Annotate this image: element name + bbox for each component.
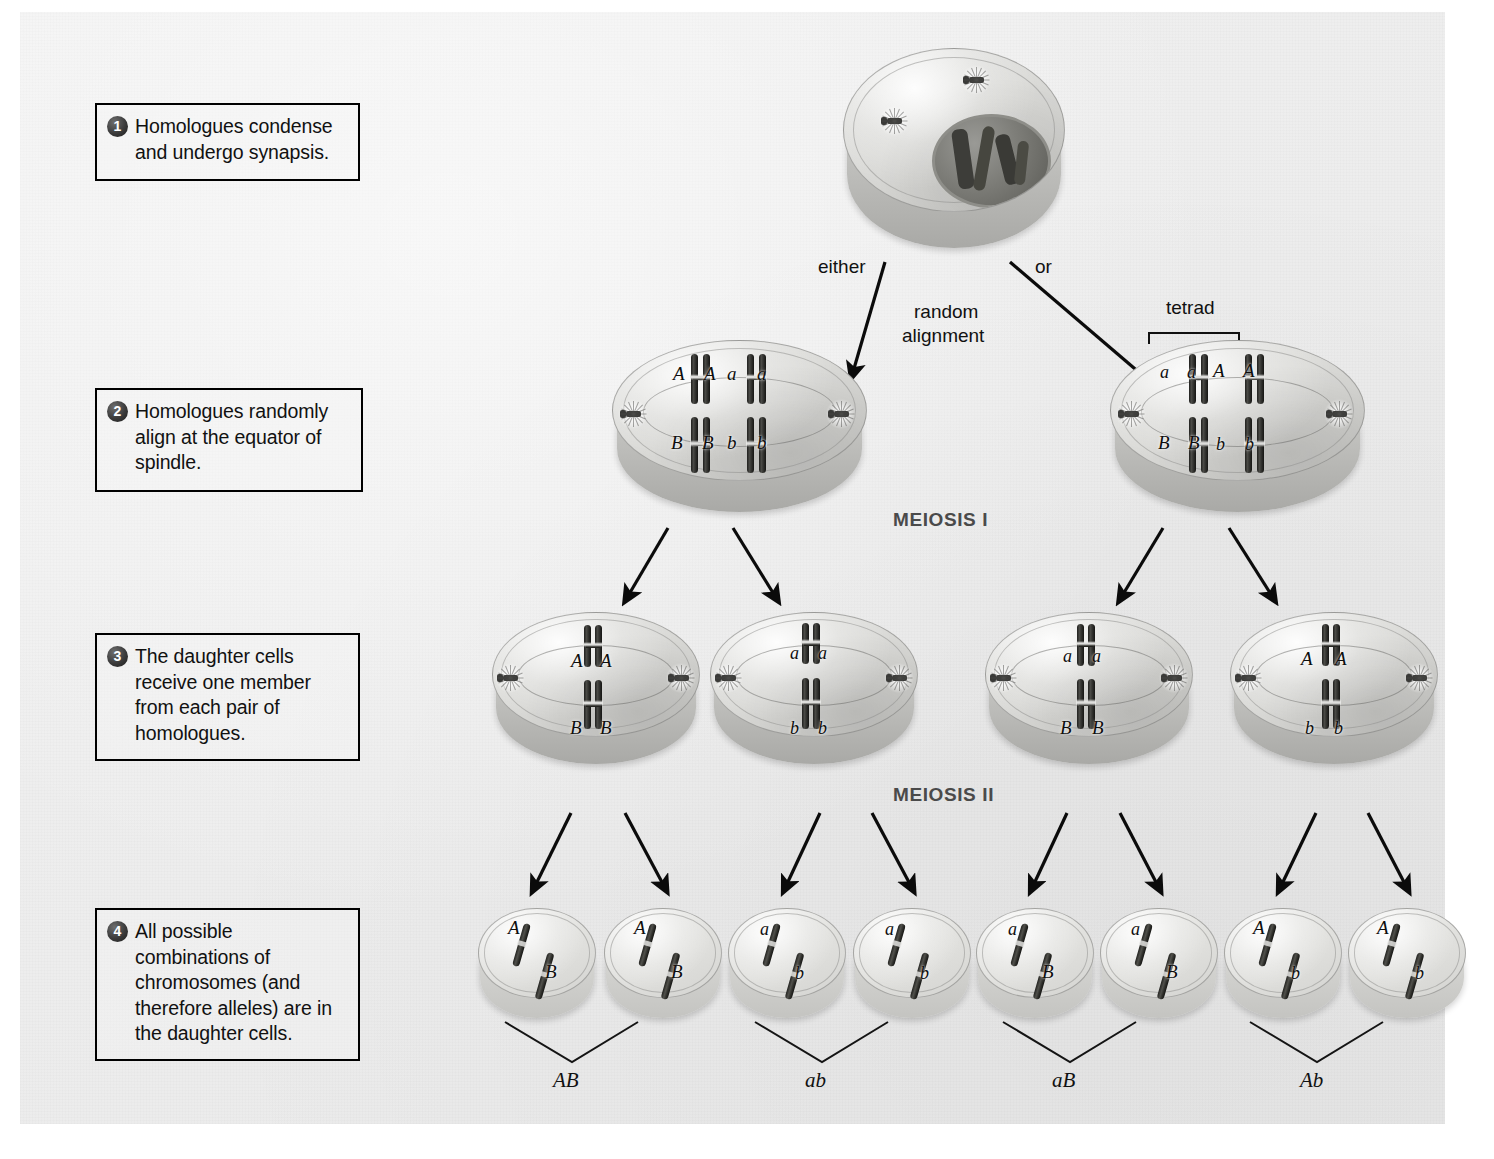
allele-c3-bot-1: B (1060, 717, 1072, 739)
gamete-3 (728, 908, 846, 1018)
allele-m2-bot-4: b (1245, 434, 1254, 455)
allele-m2-top-4: A (1243, 360, 1255, 382)
gamete-8-lower-allele: b (1415, 963, 1424, 984)
allele-c4-top-1: A (1301, 648, 1313, 670)
centrosome-upper (961, 65, 991, 95)
step-text-4: All possible combinations of chromosomes… (135, 919, 348, 1047)
gamete-2-upper-allele: A (634, 917, 646, 939)
genotype-Ab: Ab (1300, 1068, 1323, 1093)
allele-c2-bot-1: b (790, 718, 799, 739)
allele-c4-top-2: A (1335, 648, 1347, 670)
gamete-4 (853, 908, 971, 1018)
allele-m1-bot-2: B (702, 432, 714, 454)
genotype-AB: AB (553, 1068, 579, 1093)
allele-m2-bot-3: b (1216, 434, 1225, 455)
centrosome-right (1159, 663, 1189, 693)
gamete-5-upper-allele: a (1008, 919, 1017, 940)
gamete-7-upper-allele: A (1253, 917, 1265, 939)
allele-c1-top-2: A (600, 650, 612, 672)
allele-c2-top-2: a (818, 643, 827, 664)
gamete-6-lower-allele: B (1166, 961, 1178, 983)
allele-c3-top-1: a (1063, 646, 1072, 667)
allele-m1-top-2: A (704, 363, 716, 385)
allele-m1-bot-4: b (757, 432, 767, 454)
centrosome-right (666, 663, 696, 693)
gamete-6 (1100, 908, 1218, 1018)
allele-m2-top-2: a (1187, 362, 1196, 383)
meiosis-i-label: MEIOSIS I (893, 509, 988, 531)
allele-m1-bot-3: b (727, 432, 737, 454)
meiosis-figure: 1 Homologues condense and undergo synaps… (0, 0, 1494, 1159)
gamete-5-lower-allele: B (1042, 961, 1054, 983)
tetrad-label: tetrad (1166, 296, 1215, 320)
allele-m2-top-1: a (1160, 362, 1169, 383)
allele-m1-bot-1: B (671, 432, 683, 454)
meiosis-II-cell-1 (492, 612, 700, 764)
either-label: either (818, 255, 866, 279)
gamete-1-upper-allele: A (508, 917, 520, 939)
step-text-2: Homologues randomly align at the equator… (135, 399, 351, 476)
centrosome-right (884, 663, 914, 693)
gamete-3-upper-allele: a (760, 919, 769, 940)
gamete-4-upper-allele: a (885, 919, 894, 940)
meiosis-II-cell-2 (710, 612, 918, 764)
chromosome-B (584, 680, 602, 729)
allele-m1-top-4: a (757, 363, 767, 385)
allele-m1-top-1: A (673, 363, 685, 385)
step-number-1: 1 (107, 116, 128, 137)
allele-m1-top-3: a (727, 363, 737, 385)
gamete-2-lower-allele: B (671, 961, 683, 983)
centrosome-right (1404, 663, 1434, 693)
allele-c3-bot-2: B (1092, 717, 1104, 739)
gamete-1-lower-allele: B (545, 961, 557, 983)
allele-m2-top-3: A (1213, 360, 1225, 382)
step-text-3: The daughter cells receive one member fr… (135, 644, 348, 746)
gamete-8-upper-allele: A (1377, 917, 1389, 939)
step-box-4: 4 All possible combinations of chromosom… (95, 908, 360, 1061)
chromosome-A (584, 625, 602, 667)
chromosome-a (802, 623, 820, 665)
allele-m2-bot-2: B (1188, 432, 1200, 454)
genotype-ab: ab (805, 1068, 826, 1093)
step-number-2: 2 (107, 401, 128, 422)
step-box-3: 3 The daughter cells receive one member … (95, 633, 360, 761)
centrosome-right (1324, 399, 1354, 429)
allele-c1-bot-2: B (600, 717, 612, 739)
meiosis-II-cell-3 (985, 612, 1193, 764)
allele-c1-bot-1: B (570, 717, 582, 739)
allele-c2-bot-2: b (818, 718, 827, 739)
meiosis-II-cell-4 (1230, 612, 1438, 764)
gamete-2 (604, 908, 722, 1018)
gamete-3-lower-allele: b (795, 963, 804, 984)
gamete-7 (1224, 908, 1342, 1018)
gamete-5 (976, 908, 1094, 1018)
allele-c3-top-2: a (1092, 646, 1101, 667)
gamete-8 (1348, 908, 1466, 1018)
prophase-I-cell (843, 48, 1065, 248)
metaphase-I-right (1110, 340, 1365, 512)
step-text-1: Homologues condense and undergo synapsis… (135, 114, 348, 165)
step-number-4: 4 (107, 921, 128, 942)
gamete-6-upper-allele: a (1131, 919, 1140, 940)
genotype-aB: aB (1052, 1068, 1075, 1093)
chromosome-b (802, 678, 820, 730)
allele-m2-bot-1: B (1158, 432, 1170, 454)
step-box-1: 1 Homologues condense and undergo synaps… (95, 103, 360, 181)
allele-c1-top-1: A (571, 650, 583, 672)
meiosis-ii-label: MEIOSIS II (893, 784, 994, 806)
step-box-2: 2 Homologues randomly align at the equat… (95, 388, 363, 492)
nucleus (932, 114, 1051, 208)
random-alignment-label-line1: random (914, 300, 978, 324)
allele-c4-bot-1: b (1305, 718, 1314, 739)
allele-c2-top-1: a (790, 643, 799, 664)
or-label: or (1035, 255, 1052, 279)
gamete-1 (478, 908, 596, 1018)
centrosome-left (879, 106, 909, 136)
allele-c4-bot-2: b (1334, 718, 1343, 739)
random-alignment-label-line2: alignment (902, 324, 984, 348)
gamete-7-lower-allele: b (1291, 963, 1300, 984)
step-number-3: 3 (107, 646, 128, 667)
centrosome-right (826, 399, 856, 429)
metaphase-I-left (612, 340, 867, 512)
gamete-4-lower-allele: b (920, 963, 929, 984)
